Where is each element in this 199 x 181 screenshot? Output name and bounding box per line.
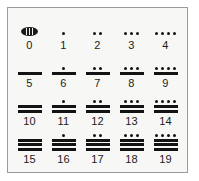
dot-icon xyxy=(62,67,65,70)
bar-icon xyxy=(86,110,110,113)
bar-icon xyxy=(120,143,144,146)
numeral-label: 10 xyxy=(23,115,36,128)
bar-icon xyxy=(52,110,76,113)
numeral-glyph xyxy=(120,54,144,75)
dot-icon xyxy=(167,32,170,35)
numeral-row: 1516171819 xyxy=(8,128,187,166)
dot-icon xyxy=(62,32,65,35)
dot-icon xyxy=(155,134,158,137)
numeral-label: 18 xyxy=(125,153,138,166)
dot-icon xyxy=(130,134,133,137)
numeral-cell-14: 14 xyxy=(149,92,183,128)
bar-group xyxy=(18,105,42,113)
dot-group xyxy=(122,28,141,35)
bar-icon xyxy=(120,72,144,75)
bar-group xyxy=(86,105,110,113)
dot-icon xyxy=(99,67,102,70)
dot-icon xyxy=(99,32,102,35)
bar-group xyxy=(120,105,144,113)
dot-group xyxy=(91,96,103,103)
dot-icon xyxy=(167,100,170,103)
numeral-glyph xyxy=(122,16,141,37)
dot-icon xyxy=(167,134,170,137)
numeral-row: 1011121314 xyxy=(8,90,187,128)
numeral-cell-10: 10 xyxy=(13,92,47,128)
bar-icon xyxy=(52,139,76,142)
dot-group xyxy=(153,28,178,35)
bar-icon xyxy=(154,139,178,142)
numeral-cell-3: 3 xyxy=(115,16,149,52)
bar-icon xyxy=(120,139,144,142)
numeral-glyph xyxy=(21,16,38,37)
numeral-glyph xyxy=(18,54,42,75)
bar-group xyxy=(86,139,110,151)
shell-stripe xyxy=(29,28,30,35)
numeral-glyph xyxy=(153,130,178,151)
numeral-cell-9: 9 xyxy=(149,54,183,90)
bar-group xyxy=(86,72,110,75)
bar-icon xyxy=(18,139,42,142)
numeral-glyph xyxy=(18,92,42,113)
numeral-cell-11: 11 xyxy=(47,92,81,128)
numeral-cell-2: 2 xyxy=(81,16,115,52)
bar-icon xyxy=(120,105,144,108)
shell-stripe xyxy=(26,28,27,35)
dot-icon xyxy=(62,134,65,137)
numeral-glyph xyxy=(86,130,110,151)
dot-icon xyxy=(124,67,127,70)
bar-icon xyxy=(120,148,144,151)
numeral-label: 17 xyxy=(91,153,104,166)
numeral-label: 2 xyxy=(94,39,100,52)
dot-icon xyxy=(173,100,176,103)
numeral-glyph xyxy=(91,16,103,37)
numeral-glyph xyxy=(60,16,66,37)
bar-icon xyxy=(154,110,178,113)
dot-icon xyxy=(130,100,133,103)
dot-icon xyxy=(93,100,96,103)
numeral-cell-7: 7 xyxy=(81,54,115,90)
dot-icon xyxy=(93,67,96,70)
dot-icon xyxy=(173,67,176,70)
dot-icon xyxy=(161,32,164,35)
numeral-label: 9 xyxy=(162,77,168,90)
numeral-glyph xyxy=(86,92,110,113)
bar-icon xyxy=(154,148,178,151)
numeral-cell-8: 8 xyxy=(115,54,149,90)
numeral-glyph xyxy=(153,54,178,75)
bar-icon xyxy=(86,143,110,146)
bar-icon xyxy=(52,148,76,151)
numeral-label: 5 xyxy=(26,77,32,90)
numeral-cell-0: 0 xyxy=(13,16,47,52)
bar-group xyxy=(52,139,76,151)
numeral-glyph xyxy=(52,54,76,75)
numeral-glyph xyxy=(153,92,178,113)
dot-icon xyxy=(136,134,139,137)
bar-icon xyxy=(18,148,42,151)
dot-icon xyxy=(99,134,102,137)
bar-icon xyxy=(52,143,76,146)
bar-icon xyxy=(18,110,42,113)
shell-stripe xyxy=(32,28,33,35)
dot-group xyxy=(153,96,178,103)
numeral-label: 4 xyxy=(162,39,168,52)
numeral-row: 01234 xyxy=(8,14,187,52)
numeral-label: 12 xyxy=(91,115,104,128)
bar-icon xyxy=(154,143,178,146)
numeral-label: 0 xyxy=(26,39,32,52)
bar-icon xyxy=(86,105,110,108)
maya-numerals-chart: 012345678910111213141516171819 xyxy=(7,7,188,173)
dot-icon xyxy=(130,67,133,70)
dot-icon xyxy=(167,67,170,70)
numeral-cell-13: 13 xyxy=(115,92,149,128)
numeral-glyph xyxy=(52,130,76,151)
numeral-glyph xyxy=(153,16,178,37)
bar-group xyxy=(120,72,144,75)
numeral-label: 1 xyxy=(60,39,66,52)
dot-group xyxy=(91,130,103,137)
numeral-label: 13 xyxy=(125,115,138,128)
numeral-cell-16: 16 xyxy=(47,130,81,166)
bar-group xyxy=(154,139,178,151)
dot-group xyxy=(122,96,141,103)
bar-icon xyxy=(154,72,178,75)
numeral-label: 8 xyxy=(128,77,134,90)
